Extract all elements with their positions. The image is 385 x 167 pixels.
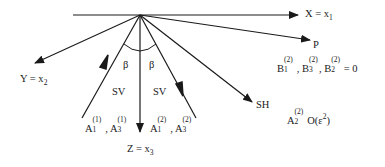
diagram-canvas bbox=[0, 0, 385, 167]
sv-incident-ray bbox=[82, 15, 140, 118]
x-axis-label: X = x1 bbox=[305, 9, 333, 22]
sv-left-amplitudes: A(1)1 , A(1)3 bbox=[85, 122, 127, 135]
sv-right-label: SV bbox=[153, 87, 166, 98]
sv-left-label: SV bbox=[112, 87, 125, 98]
sv-right-amplitudes: A(2)1 , A(2)3 bbox=[150, 122, 192, 135]
p-label: P bbox=[313, 40, 319, 51]
p-wave-ray bbox=[140, 15, 310, 40]
sh-label: SH bbox=[256, 100, 269, 111]
p-amplitudes: B(2)1 , B(2)3, B(2)2 = 0 bbox=[277, 62, 358, 75]
y-axis-label: Y = x2 bbox=[20, 74, 47, 87]
sh-amplitude: A(2)2 O(ε2) bbox=[287, 113, 330, 127]
sv-incident-arrowhead bbox=[100, 55, 108, 69]
sv-reflected-arrowhead bbox=[176, 82, 183, 96]
beta-right-label: β bbox=[149, 60, 154, 71]
z-axis-label: Z = x3 bbox=[127, 144, 154, 157]
beta-left-label: β bbox=[123, 60, 128, 71]
y-axis-line bbox=[35, 15, 140, 63]
